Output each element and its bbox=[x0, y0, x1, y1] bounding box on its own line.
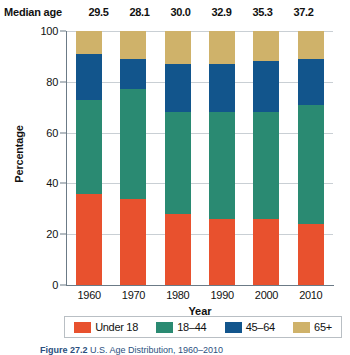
bar-slot bbox=[67, 31, 111, 285]
bar-slot bbox=[289, 31, 333, 285]
stacked-bar[interactable] bbox=[120, 31, 146, 285]
bar-group bbox=[67, 31, 333, 285]
x-axis-tick-labels: 1960 1970 1980 1990 2000 2010 bbox=[67, 289, 333, 301]
y-axis-title: Percentage bbox=[13, 89, 25, 219]
bar-slot bbox=[244, 31, 288, 285]
median-age-value: 30.0 bbox=[160, 6, 201, 18]
bar-segment[interactable] bbox=[165, 214, 191, 285]
legend-swatch bbox=[225, 322, 242, 333]
y-axis-tick-label: 100 bbox=[30, 25, 58, 37]
plot-area bbox=[67, 31, 333, 285]
median-age-row: Median age 29.5 28.1 30.0 32.9 35.3 37.2 bbox=[0, 4, 350, 24]
bar-segment[interactable] bbox=[165, 64, 191, 112]
x-axis-tick-label: 1990 bbox=[200, 289, 244, 301]
legend-label: Under 18 bbox=[95, 321, 138, 333]
bar-segment[interactable] bbox=[209, 64, 235, 112]
bar-segment[interactable] bbox=[120, 199, 146, 285]
bar-segment[interactable] bbox=[120, 89, 146, 198]
stacked-bar[interactable] bbox=[165, 31, 191, 285]
bar-segment[interactable] bbox=[298, 59, 324, 105]
stacked-bar[interactable] bbox=[76, 31, 102, 285]
bar-segment[interactable] bbox=[298, 31, 324, 59]
bar-segment[interactable] bbox=[253, 112, 279, 219]
bar-slot bbox=[111, 31, 155, 285]
x-axis-tick-label: 1970 bbox=[111, 289, 155, 301]
bar-segment[interactable] bbox=[209, 112, 235, 219]
figure-caption-text: U.S. Age Distribution, 1960–2010 bbox=[88, 345, 224, 355]
bar-slot bbox=[156, 31, 200, 285]
bar-segment[interactable] bbox=[76, 31, 102, 54]
x-axis-tick-label: 2000 bbox=[244, 289, 288, 301]
bar-segment[interactable] bbox=[253, 219, 279, 285]
median-age-value: 35.3 bbox=[242, 6, 283, 18]
y-axis-tick-label: 20 bbox=[30, 228, 58, 240]
median-age-values: 29.5 28.1 30.0 32.9 35.3 37.2 bbox=[78, 6, 324, 18]
x-axis-tick-label: 1960 bbox=[67, 289, 111, 301]
bar-segment[interactable] bbox=[209, 219, 235, 285]
bar-segment[interactable] bbox=[253, 31, 279, 61]
bar-segment[interactable] bbox=[165, 31, 191, 64]
median-age-value: 28.1 bbox=[119, 6, 160, 18]
y-axis-tick-label: 40 bbox=[30, 177, 58, 189]
y-axis-tick-label: 0 bbox=[30, 279, 58, 291]
legend-label: 65+ bbox=[314, 321, 332, 333]
legend-item[interactable]: 18–44 bbox=[156, 321, 206, 333]
legend-item[interactable]: 45–64 bbox=[225, 321, 275, 333]
legend-swatch bbox=[293, 322, 310, 333]
chart-plot: Percentage 020406080100 1960 1970 1980 1… bbox=[0, 24, 350, 309]
bar-slot bbox=[200, 31, 244, 285]
legend-swatch bbox=[74, 322, 91, 333]
stacked-bar[interactable] bbox=[298, 31, 324, 285]
legend-item[interactable]: 65+ bbox=[293, 321, 332, 333]
x-axis-tick-label: 2010 bbox=[289, 289, 333, 301]
stacked-bar[interactable] bbox=[253, 31, 279, 285]
y-axis-tick-label: 80 bbox=[30, 76, 58, 88]
legend-label: 18–44 bbox=[177, 321, 206, 333]
bar-segment[interactable] bbox=[76, 100, 102, 194]
bar-segment[interactable] bbox=[298, 105, 324, 224]
bar-segment[interactable] bbox=[120, 59, 146, 89]
bar-segment[interactable] bbox=[76, 194, 102, 285]
median-age-value: 32.9 bbox=[201, 6, 242, 18]
bar-segment[interactable] bbox=[76, 54, 102, 100]
legend-swatch bbox=[156, 322, 173, 333]
bar-segment[interactable] bbox=[253, 61, 279, 112]
median-age-label: Median age bbox=[4, 6, 62, 18]
x-axis-line bbox=[66, 285, 334, 286]
bar-segment[interactable] bbox=[298, 224, 324, 285]
legend-item[interactable]: Under 18 bbox=[74, 321, 138, 333]
x-axis-tick-label: 1980 bbox=[156, 289, 200, 301]
y-axis-tick-labels: 020406080100 bbox=[30, 24, 58, 286]
bar-segment[interactable] bbox=[165, 112, 191, 214]
chart-legend: Under 1818–4445–6465+ bbox=[64, 316, 342, 338]
figure-caption: Figure 27.2 U.S. Age Distribution, 1960–… bbox=[40, 345, 340, 355]
bar-segment[interactable] bbox=[120, 31, 146, 59]
legend-label: 45–64 bbox=[246, 321, 275, 333]
median-age-value: 37.2 bbox=[283, 6, 324, 18]
figure-caption-number: Figure 27.2 bbox=[40, 345, 88, 355]
y-axis-tick-label: 60 bbox=[30, 127, 58, 139]
stacked-bar[interactable] bbox=[209, 31, 235, 285]
median-age-value: 29.5 bbox=[78, 6, 119, 18]
bar-segment[interactable] bbox=[209, 31, 235, 64]
